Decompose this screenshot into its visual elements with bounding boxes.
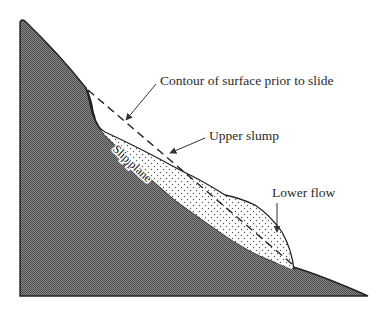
bedrock-mass — [20, 20, 368, 296]
contour-label: Contour of surface prior to slide — [160, 73, 334, 88]
contour-arrow — [126, 84, 156, 120]
lower-flow-label: Lower flow — [272, 185, 336, 200]
upper-slump-label: Upper slump — [209, 128, 279, 143]
landslide-diagram: Slip plane Contour of surface prior to s… — [0, 0, 387, 312]
upper-slump-arrow — [170, 138, 205, 153]
